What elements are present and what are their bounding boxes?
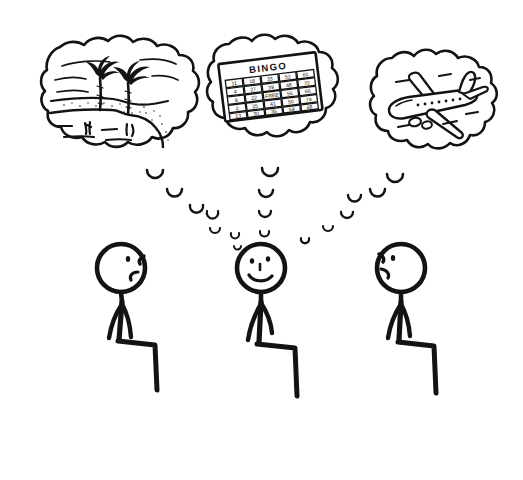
bingo-cell: 48 xyxy=(286,82,293,89)
eye-dot-right xyxy=(266,256,270,262)
bingo-cell: 22 xyxy=(251,94,258,101)
eye-dot xyxy=(391,255,395,261)
bingo-cell: 59 xyxy=(289,106,296,113)
eye-dot xyxy=(126,256,130,262)
head xyxy=(377,244,425,292)
thought-bubble-bingo: BINGO xyxy=(207,35,338,137)
bingo-cell: 18 xyxy=(249,78,256,85)
bingo-card: BINGO xyxy=(218,52,322,122)
head xyxy=(97,244,145,292)
bingo-cell: 52 xyxy=(285,73,292,80)
bingo-cell: 68 xyxy=(306,104,313,111)
drawing-canvas: BINGO xyxy=(0,0,523,480)
eye-dot-left xyxy=(250,258,254,264)
bingo-cell: 33 xyxy=(267,75,274,82)
bingo-cell: 13 xyxy=(235,112,242,119)
bingo-cell: 35 xyxy=(271,108,278,115)
bingo-cell: 70 xyxy=(303,79,310,86)
bingo-cell: 25 xyxy=(252,103,259,110)
bingo-cell: 39 xyxy=(268,84,275,91)
bingo-cell: 61 xyxy=(302,71,309,78)
bingo-cell: 66 xyxy=(304,88,311,95)
bingo-cell: 41 xyxy=(270,100,277,107)
bingo-cell: 55 xyxy=(287,90,294,97)
bingo-cell: 30 xyxy=(253,110,260,117)
bingo-cell: 11 xyxy=(231,80,237,87)
bingo-cell: 27 xyxy=(250,86,257,93)
bingo-cell: 50 xyxy=(288,98,295,105)
thought-bubble-airplane xyxy=(370,50,497,149)
bingo-cell: 74 xyxy=(305,96,312,103)
cartoon-illustration: BINGO xyxy=(0,0,523,480)
